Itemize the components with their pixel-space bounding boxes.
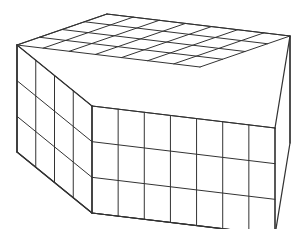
figure-stage: A 7 by 4 by 3 rectangular prism drawn as… — [0, 0, 295, 229]
cube-block-figure — [0, 0, 295, 229]
top-ridge-right — [275, 36, 290, 128]
